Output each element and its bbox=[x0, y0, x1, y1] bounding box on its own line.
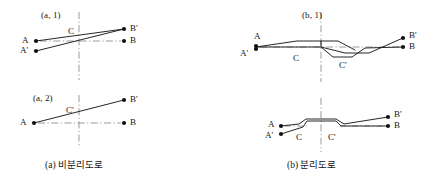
b2-label-b: B bbox=[394, 121, 400, 130]
a1-path-a-to-bprime bbox=[36, 29, 124, 41]
b1-label-bprime: B' bbox=[409, 31, 417, 40]
a1-label-bprime: B' bbox=[130, 24, 138, 33]
b1-path-lower bbox=[256, 47, 403, 57]
a2-node-a bbox=[32, 121, 36, 125]
b1-node-aprime bbox=[254, 47, 258, 51]
a1-label-b: B bbox=[130, 36, 136, 45]
b1-label-a: A bbox=[254, 32, 261, 41]
panel-a-caption: (a) 비분리도로 bbox=[45, 161, 103, 171]
b1-label-aprime: A' bbox=[240, 49, 248, 58]
a1-label-aprime: A' bbox=[20, 46, 28, 55]
panel-b-caption: (b) 분리도로 bbox=[287, 161, 336, 171]
a2-path-a-to-bprime bbox=[34, 100, 124, 123]
a1-node-b bbox=[122, 39, 126, 43]
a2-label-bprime: B' bbox=[130, 95, 138, 104]
a1-label-c: C bbox=[68, 27, 74, 36]
b2-label-cprime: C' bbox=[328, 133, 336, 142]
a1-label-a: A bbox=[22, 36, 29, 45]
b2-label-aprime: A' bbox=[265, 131, 273, 140]
b2-node-bprime bbox=[386, 115, 390, 119]
b2-node-aprime bbox=[279, 132, 283, 136]
b1-label-c: C bbox=[293, 54, 299, 63]
subpanel-tag-a1: (a, 1) bbox=[41, 11, 61, 20]
b1-node-b bbox=[401, 45, 405, 49]
b2-label-bprime: B' bbox=[394, 110, 402, 119]
b1-node-bprime bbox=[401, 36, 405, 40]
b2-label-a: A bbox=[268, 120, 275, 129]
a2-label-a: A bbox=[20, 118, 27, 127]
a1-path-aprime-to-bprime bbox=[36, 29, 124, 51]
b1-label-cprime: C' bbox=[339, 61, 347, 70]
a1-node-bprime bbox=[122, 27, 126, 31]
b1-path-upper bbox=[256, 38, 403, 53]
b2-label-c: C bbox=[296, 133, 302, 142]
b1-label-b: B bbox=[409, 42, 415, 51]
a1-node-aprime bbox=[34, 49, 38, 53]
a2-node-bprime bbox=[122, 98, 126, 102]
b2-node-b bbox=[386, 124, 390, 128]
a1-node-a bbox=[34, 39, 38, 43]
a2-label-cprime: C' bbox=[66, 106, 74, 115]
a2-node-b bbox=[122, 121, 126, 125]
subpanel-tag-a2: (a, 2) bbox=[33, 94, 53, 103]
figure-container: (a, 1) A A' B' B C (a, 2) A B' B C' (a) … bbox=[0, 0, 433, 191]
subpanel-tag-b1: (b, 1) bbox=[302, 11, 322, 20]
a2-label-b: B bbox=[130, 118, 136, 127]
b2-node-a bbox=[279, 124, 283, 128]
b2-path-upper bbox=[281, 117, 388, 126]
